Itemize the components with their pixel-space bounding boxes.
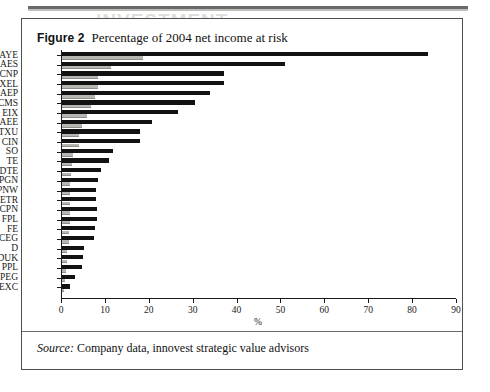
y-tick-PEG bbox=[57, 278, 61, 279]
bar-D bbox=[62, 246, 84, 250]
category-label-PPL: PPL bbox=[0, 262, 18, 272]
bar-TE bbox=[62, 158, 109, 162]
y-tick-DUK bbox=[57, 258, 61, 259]
bar-scan-ghost bbox=[62, 124, 82, 127]
bar-scan-ghost bbox=[62, 114, 87, 117]
category-label-FE: FE bbox=[0, 224, 18, 234]
category-label-SO: SO bbox=[0, 146, 18, 156]
category-label-FPL: FPL bbox=[0, 214, 18, 224]
bar-scan-ghost bbox=[62, 192, 70, 195]
bar-scan-ghost bbox=[62, 134, 79, 137]
x-tick-30 bbox=[193, 299, 194, 303]
bar-row: TE bbox=[22, 158, 464, 168]
bar-scan-ghost bbox=[62, 279, 65, 282]
x-tick-label-20: 20 bbox=[144, 305, 154, 315]
bar-scan-ghost bbox=[62, 144, 79, 147]
y-tick-CNP bbox=[57, 74, 61, 75]
bar-scan-ghost bbox=[62, 269, 66, 272]
bar-row: EIX bbox=[22, 110, 464, 120]
bar-scan-ghost bbox=[62, 211, 70, 214]
y-tick-DTE bbox=[57, 171, 61, 172]
bar-scan-ghost bbox=[62, 221, 70, 224]
bar-scan-ghost bbox=[62, 250, 67, 253]
bar-scan-ghost bbox=[62, 240, 69, 243]
bar-scan-ghost bbox=[62, 231, 69, 234]
category-label-AEE: AEE bbox=[0, 117, 18, 127]
y-tick-CPN bbox=[57, 210, 61, 211]
category-label-PEG: PEG bbox=[0, 272, 18, 282]
y-tick-AES bbox=[57, 65, 61, 66]
category-label-EXC: EXC bbox=[0, 282, 18, 292]
bar-TXU bbox=[62, 129, 140, 133]
x-tick-label-50: 50 bbox=[276, 305, 286, 315]
category-label-PNW: PNW bbox=[0, 185, 18, 195]
x-tick-50 bbox=[280, 299, 281, 303]
y-tick-XEL bbox=[57, 84, 61, 85]
bar-row: XEL bbox=[22, 81, 464, 91]
bar-row: DTE bbox=[22, 168, 464, 178]
figure-caption: Figure 2Percentage of 2004 net income at… bbox=[37, 30, 288, 46]
bar-row: PEG bbox=[22, 275, 464, 285]
bar-row: FPL bbox=[22, 217, 464, 227]
bar-scan-ghost bbox=[62, 95, 95, 98]
category-label-CNP: CNP bbox=[0, 69, 18, 79]
figure-title: Percentage of 2004 net income at risk bbox=[91, 30, 287, 45]
y-tick-TXU bbox=[57, 132, 61, 133]
bar-row: AES bbox=[22, 62, 464, 72]
bar-row: CEG bbox=[22, 236, 464, 246]
bar-scan-ghost bbox=[62, 182, 70, 185]
bar-row: CPN bbox=[22, 207, 464, 217]
bar-AEP bbox=[62, 91, 210, 95]
bar-row: AEP bbox=[22, 91, 464, 101]
bar-row: CNP bbox=[22, 71, 464, 81]
bar-scan-ghost bbox=[62, 202, 70, 205]
bar-CIN bbox=[62, 139, 140, 143]
y-tick-PPL bbox=[57, 268, 61, 269]
bar-row: CMS bbox=[22, 100, 464, 110]
y-tick-FPL bbox=[57, 220, 61, 221]
x-tick-60 bbox=[324, 299, 325, 303]
bar-row: AEE bbox=[22, 120, 464, 130]
source-note: Source: Company data, innovest strategic… bbox=[37, 341, 309, 356]
y-tick-TE bbox=[57, 161, 61, 162]
category-label-TE: TE bbox=[0, 156, 18, 166]
figure-label: Figure 2 bbox=[37, 31, 84, 45]
category-label-ETR: ETR bbox=[0, 195, 18, 205]
bar-row: DUK bbox=[22, 255, 464, 265]
x-tick-label-70: 70 bbox=[363, 305, 373, 315]
x-tick-label-40: 40 bbox=[232, 305, 242, 315]
bar-SO bbox=[62, 149, 113, 153]
bar-PNW bbox=[62, 188, 96, 192]
bar-scan-ghost bbox=[62, 153, 73, 156]
y-tick-AEP bbox=[57, 94, 61, 95]
bar-DTE bbox=[62, 168, 101, 172]
bar-CMS bbox=[62, 100, 195, 104]
category-label-AEP: AEP bbox=[0, 88, 18, 98]
y-tick-EXC bbox=[57, 287, 61, 288]
bar-scan-ghost bbox=[62, 76, 98, 79]
category-label-DTE: DTE bbox=[0, 166, 18, 176]
category-label-D: D bbox=[0, 243, 18, 253]
category-label-EIX: EIX bbox=[0, 108, 18, 118]
page-top-rule bbox=[28, 6, 468, 9]
bar-AES bbox=[62, 62, 285, 66]
category-label-AES: AES bbox=[0, 59, 18, 69]
x-tick-label-80: 80 bbox=[407, 305, 417, 315]
source-divider bbox=[22, 331, 462, 332]
bar-PPL bbox=[62, 265, 82, 269]
bar-ETR bbox=[62, 197, 96, 201]
bar-CNP bbox=[62, 71, 224, 75]
bar-row: FE bbox=[22, 226, 464, 236]
category-label-CPN: CPN bbox=[0, 204, 18, 214]
bar-row: AYE bbox=[22, 52, 464, 62]
x-axis-title: % bbox=[254, 317, 262, 327]
x-tick-0 bbox=[61, 299, 62, 303]
y-tick-ETR bbox=[57, 200, 61, 201]
y-tick-PGN bbox=[57, 181, 61, 182]
bar-PEG bbox=[62, 275, 75, 279]
source-keyword: Source: bbox=[37, 341, 74, 355]
bar-row: ETR bbox=[22, 197, 464, 207]
y-tick-CIN bbox=[57, 142, 61, 143]
x-tick-90 bbox=[456, 299, 457, 303]
bar-FE bbox=[62, 226, 95, 230]
